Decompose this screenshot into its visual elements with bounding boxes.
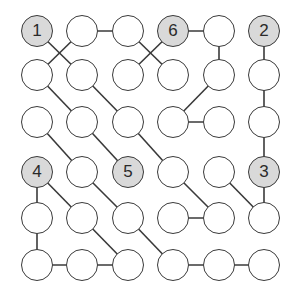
empty-node[interactable] — [248, 106, 280, 138]
puzzle-board: 162453 — [0, 0, 302, 307]
empty-node[interactable] — [157, 202, 189, 234]
node-label: 1 — [32, 21, 41, 41]
empty-node[interactable] — [112, 59, 144, 91]
empty-node[interactable] — [112, 249, 144, 281]
empty-node[interactable] — [66, 156, 98, 188]
given-node: 1 — [21, 15, 53, 47]
node-label: 2 — [259, 21, 268, 41]
empty-node[interactable] — [203, 202, 235, 234]
empty-node[interactable] — [203, 106, 235, 138]
given-node: 4 — [21, 156, 53, 188]
node-label: 3 — [259, 162, 268, 182]
empty-node[interactable] — [21, 59, 53, 91]
empty-node[interactable] — [248, 59, 280, 91]
empty-node[interactable] — [203, 249, 235, 281]
empty-node[interactable] — [112, 202, 144, 234]
empty-node[interactable] — [21, 106, 53, 138]
empty-node[interactable] — [66, 249, 98, 281]
given-node: 3 — [248, 156, 280, 188]
empty-node[interactable] — [157, 106, 189, 138]
given-node: 5 — [112, 156, 144, 188]
empty-node[interactable] — [203, 59, 235, 91]
empty-node[interactable] — [112, 15, 144, 47]
empty-node[interactable] — [157, 249, 189, 281]
empty-node[interactable] — [112, 106, 144, 138]
empty-node[interactable] — [21, 249, 53, 281]
empty-node[interactable] — [66, 15, 98, 47]
node-label: 4 — [32, 162, 41, 182]
empty-node[interactable] — [157, 156, 189, 188]
node-label: 5 — [123, 162, 132, 182]
empty-node[interactable] — [157, 59, 189, 91]
empty-node[interactable] — [248, 202, 280, 234]
given-node: 2 — [248, 15, 280, 47]
empty-node[interactable] — [66, 106, 98, 138]
empty-node[interactable] — [203, 15, 235, 47]
empty-node[interactable] — [203, 156, 235, 188]
empty-node[interactable] — [66, 59, 98, 91]
node-label: 6 — [168, 21, 177, 41]
empty-node[interactable] — [248, 249, 280, 281]
empty-node[interactable] — [21, 202, 53, 234]
empty-node[interactable] — [66, 202, 98, 234]
given-node: 6 — [157, 15, 189, 47]
